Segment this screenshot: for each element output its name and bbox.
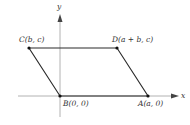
point-d bbox=[115, 46, 118, 49]
parallelogram-shape bbox=[29, 48, 148, 96]
point-d-label: D(a + b, c) bbox=[112, 36, 153, 44]
y-axis-label: y bbox=[57, 3, 61, 11]
x-axis-label: x bbox=[181, 92, 185, 100]
point-a bbox=[146, 94, 149, 97]
point-b-label: B(0, 0) bbox=[63, 100, 89, 108]
point-c bbox=[27, 46, 30, 49]
parallelogram-diagram: y x C(b, c) D(a + b, c) B(0, 0) A(a, 0) bbox=[0, 0, 190, 125]
point-a-label: A(a, 0) bbox=[138, 100, 163, 108]
x-axis-arrow-icon bbox=[171, 94, 179, 99]
point-c-label: C(b, c) bbox=[19, 36, 44, 44]
y-axis-arrow-icon bbox=[58, 14, 63, 22]
point-b bbox=[58, 94, 61, 97]
